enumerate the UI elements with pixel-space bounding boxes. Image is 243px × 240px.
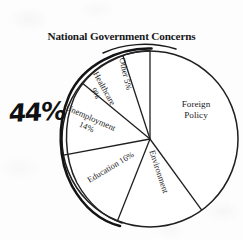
slice-label-foreign-policy-line1: Foreign — [182, 99, 211, 109]
handwritten-percentage-annotation: 44% — [8, 97, 66, 128]
slice-label-foreign-policy-line2: Policy — [184, 110, 207, 120]
slice-label-foreign-policy: Foreign Policy — [170, 99, 222, 121]
